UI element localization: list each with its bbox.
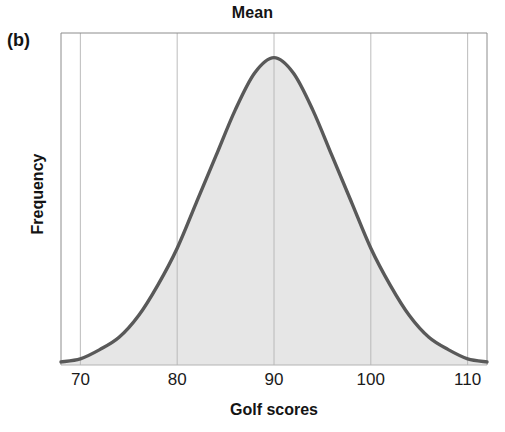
normal-distribution-plot	[0, 0, 505, 432]
x-tick-label-90: 90	[244, 370, 304, 390]
x-tick-label-70: 70	[50, 370, 110, 390]
plot-area	[61, 33, 487, 365]
x-tick-label-80: 80	[147, 370, 207, 390]
x-tick-label-100: 100	[341, 370, 401, 390]
x-tick-label-110: 110	[438, 370, 498, 390]
figure-container: (b) Mean Frequency 708090100110 Golf sco…	[0, 0, 505, 432]
x-axis-label: Golf scores	[61, 401, 487, 419]
